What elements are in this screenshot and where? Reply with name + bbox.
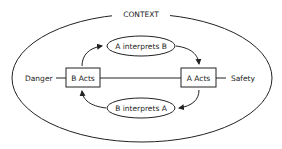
- arrow-b-acts-to-a-interprets: [82, 46, 102, 66]
- b-interprets-a-label: B interprets A: [115, 104, 168, 113]
- context-diagram: CONTEXT Danger Safety B Acts A Acts A in…: [0, 0, 282, 149]
- b-acts-label: B Acts: [71, 74, 95, 83]
- context-label: CONTEXT: [123, 10, 159, 19]
- a-interprets-b-label: A interprets B: [115, 42, 167, 51]
- a-acts-label: A Acts: [187, 74, 211, 83]
- arrow-b-interprets-to-b-acts: [82, 91, 106, 108]
- safety-label: Safety: [231, 74, 256, 83]
- arrow-a-acts-to-b-interprets: [179, 90, 199, 108]
- arrow-a-interprets-to-a-acts: [176, 46, 199, 64]
- danger-label: Danger: [25, 74, 53, 83]
